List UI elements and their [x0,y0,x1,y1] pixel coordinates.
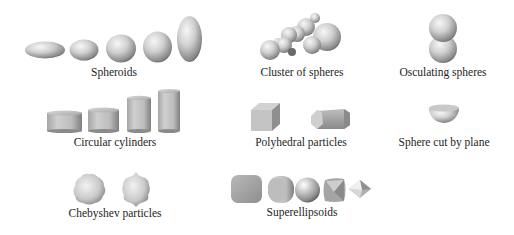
cylinder-3 [127,96,151,133]
chebyshev-particles-group [74,172,150,207]
particle-shapes-figure [0,0,514,235]
cube [251,103,280,131]
oblate-spheroid-2 [70,40,99,61]
cylinder-1 [47,111,82,134]
superellipsoids-group [231,175,371,203]
label-chebyshev-particles: Chebyshev particles [69,208,162,220]
label-spheroids: Spheroids [91,67,137,79]
label-superellipsoids: Superellipsoids [267,207,338,219]
chebyshev-particle-2 [122,172,150,207]
superellipsoid-octahedron [349,180,371,198]
osculating-spheres-group [429,14,457,63]
label-sphere-cut-by-plane: Sphere cut by plane [398,137,489,149]
label-circular-cylinders: Circular cylinders [74,137,157,149]
label-osculating-spheres: Osculating spheres [399,67,486,79]
label-polyhedral-particles: Polyhedral particles [255,137,347,149]
cluster-of-spheres-group [260,13,341,60]
chebyshev-particle-1 [74,174,106,205]
spheroids-group [25,16,202,63]
sphere-cut-by-plane-group [429,105,459,124]
oblate-spheroid-1 [25,42,65,59]
sphere [106,35,136,63]
hexagonal-prism [311,109,350,129]
cylinder-2 [88,108,119,134]
circular-cylinders-group [47,89,180,133]
cylinder-4 [158,89,180,133]
superellipsoid-sphere [295,178,320,203]
superellipsoid-cube [231,175,262,203]
superellipsoid-cylinder [268,176,294,203]
prolate-spheroid-1 [143,32,172,63]
label-cluster-of-spheres: Cluster of spheres [260,67,343,79]
superellipsoid-rounded-octahedron [324,178,346,202]
prolate-spheroid-2 [177,16,202,62]
polyhedral-particles-group [251,103,350,131]
